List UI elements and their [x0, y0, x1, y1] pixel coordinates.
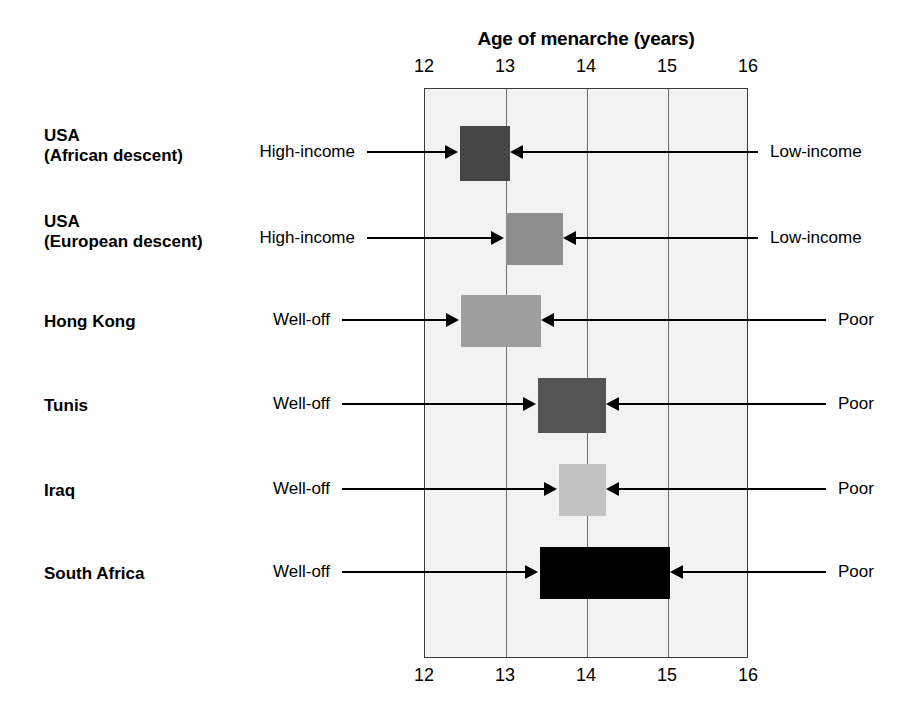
annotation-right-usa-european-descent: Low-income [770, 228, 862, 248]
arrow-head-right-hong-kong [541, 313, 554, 327]
x-tick-label-12: 12 [404, 665, 444, 686]
arrow-line-left-usa-european-descent [367, 237, 491, 239]
x-tick-label-16: 16 [728, 665, 768, 686]
category-label-iraq: Iraq [44, 481, 75, 501]
arrow-head-left-usa-european-descent [491, 231, 504, 245]
arrow-line-left-iraq [342, 488, 544, 490]
x-tick-label-15: 15 [647, 56, 687, 77]
annotation-right-iraq: Poor [838, 479, 874, 499]
arrow-head-right-usa-european-descent [563, 231, 576, 245]
annotation-right-tunis: Poor [838, 394, 874, 414]
category-label-tunis: Tunis [44, 396, 88, 416]
arrow-head-left-tunis [523, 397, 536, 411]
x-tick-label-14: 14 [566, 665, 606, 686]
annotation-left-iraq: Well-off [273, 479, 330, 499]
arrow-line-left-hong-kong [342, 319, 446, 321]
arrow-line-left-south-africa [342, 571, 525, 573]
arrow-line-right-hong-kong [554, 319, 826, 321]
arrow-line-right-usa-european-descent [576, 237, 758, 239]
category-label-usa-african-descent: USA (African descent) [44, 126, 183, 166]
arrow-head-right-south-africa [670, 565, 683, 579]
x-tick-label-13: 13 [485, 665, 525, 686]
bar-usa-african-descent [460, 126, 510, 181]
arrow-line-right-south-africa [683, 571, 826, 573]
bar-south-africa [540, 547, 670, 599]
annotation-left-south-africa: Well-off [273, 562, 330, 582]
arrow-head-left-usa-african-descent [445, 145, 458, 159]
arrow-line-right-usa-african-descent [523, 151, 758, 153]
arrow-head-right-tunis [606, 397, 619, 411]
category-label-hong-kong: Hong Kong [44, 312, 136, 332]
menarche-age-chart: Age of menarche (years) 1213141516 12131… [0, 0, 912, 720]
category-label-usa-european-descent: USA (European descent) [44, 212, 203, 252]
arrow-head-right-usa-african-descent [510, 145, 523, 159]
x-tick-label-12: 12 [404, 56, 444, 77]
annotation-right-hong-kong: Poor [838, 310, 874, 330]
annotation-right-usa-african-descent: Low-income [770, 142, 862, 162]
x-tick-label-15: 15 [647, 665, 687, 686]
annotation-right-south-africa: Poor [838, 562, 874, 582]
x-tick-label-16: 16 [728, 56, 768, 77]
annotation-left-tunis: Well-off [273, 394, 330, 414]
bar-hong-kong [461, 295, 540, 347]
arrow-line-right-iraq [619, 488, 826, 490]
arrow-head-right-iraq [606, 482, 619, 496]
x-tick-label-14: 14 [566, 56, 606, 77]
arrow-line-left-usa-african-descent [367, 151, 445, 153]
annotation-left-usa-european-descent: High-income [260, 228, 355, 248]
bar-tunis [538, 378, 605, 433]
arrow-line-left-tunis [342, 403, 523, 405]
arrow-head-left-south-africa [525, 565, 538, 579]
arrow-head-left-hong-kong [446, 313, 459, 327]
chart-title: Age of menarche (years) [414, 28, 758, 50]
annotation-left-usa-african-descent: High-income [260, 142, 355, 162]
category-label-south-africa: South Africa [44, 564, 144, 584]
bar-usa-european-descent [506, 213, 563, 265]
annotation-left-hong-kong: Well-off [273, 310, 330, 330]
bar-iraq [559, 464, 606, 516]
arrow-head-left-iraq [544, 482, 557, 496]
x-tick-label-13: 13 [485, 56, 525, 77]
arrow-line-right-tunis [619, 403, 826, 405]
